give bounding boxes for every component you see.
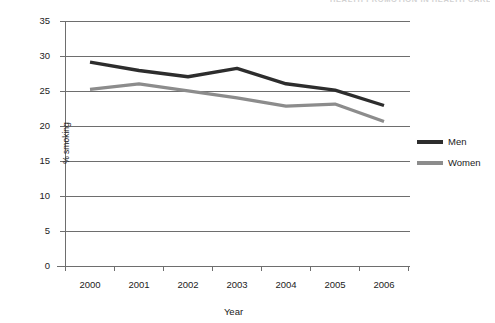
running-head: HEALTH PROMOTION IN HEALTH CARE	[330, 0, 490, 4]
y-axis-label: % smoking	[61, 98, 71, 188]
y-tick-label-20: 20	[10, 121, 50, 131]
y-tick-label-30: 30	[10, 51, 50, 61]
chart-legend: Men Women	[417, 131, 491, 173]
legend-item-women: Women	[417, 152, 491, 173]
legend-label-women: Women	[448, 157, 481, 168]
legend-item-men: Men	[417, 131, 491, 152]
legend-swatch-men-icon	[417, 140, 443, 144]
series-line-women	[90, 84, 384, 122]
y-tick-label-5: 5	[10, 226, 50, 236]
y-tick-label-0: 0	[10, 261, 50, 271]
x-tick-label-2006: 2006	[354, 280, 414, 290]
chart-figure: HEALTH PROMOTION IN HEALTH CARE	[0, 0, 495, 323]
y-tick-label-10: 10	[10, 191, 50, 201]
y-tick-label-25: 25	[10, 86, 50, 96]
chart-canvas	[57, 18, 410, 271]
gridlines	[65, 22, 410, 232]
x-tick-marks	[66, 267, 409, 271]
legend-swatch-women-icon	[417, 161, 443, 165]
plot-area: 35 30 25 20 15 10 5 0 % smoking 2000 200…	[57, 18, 410, 271]
y-tick-label-15: 15	[10, 156, 50, 166]
y-tick-label-35: 35	[10, 16, 50, 26]
legend-label-men: Men	[448, 136, 466, 147]
x-axis-label: Year	[57, 306, 410, 317]
